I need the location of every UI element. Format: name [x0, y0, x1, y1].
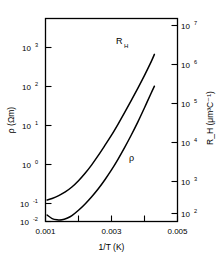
- annotation-rho: ρ: [129, 153, 134, 163]
- left-tick-label-1e2-mantissa: 10: [22, 83, 31, 92]
- left-tick-label-1em1-exponent: -1: [33, 198, 38, 204]
- left-tick-label-1e0-mantissa: 10: [22, 161, 31, 170]
- left-tick-label-1e1-exponent: 1: [35, 120, 38, 126]
- left-tick-label-1em2-exponent: -2: [33, 216, 38, 222]
- right-tick-label-1e2-mantissa: 10: [181, 210, 190, 219]
- series-curve-rho: [47, 86, 154, 220]
- left-tick-label-1e3-exponent: 3: [35, 42, 38, 48]
- annotation-rh-subscript: H: [124, 43, 128, 49]
- x-tick-label-0.005: 0.005: [167, 227, 188, 236]
- left-axis-tick-labels: 10 3 10 2 10 1 10 0 10 -1 10 -2: [20, 42, 38, 228]
- right-tick-label-1e5-mantissa: 10: [181, 100, 190, 109]
- right-tick-label-1e5-exponent: 5: [194, 98, 197, 104]
- right-tick-label-1e3-mantissa: 10: [181, 178, 190, 187]
- series-curve-rh: [47, 54, 154, 200]
- chart-plot: 10 3 10 2 10 1 10 0 10 -1 10 -2 10 7: [0, 0, 223, 269]
- left-axis-ticks: [46, 48, 52, 222]
- annotation-rh: R H: [116, 36, 128, 49]
- x-tick-label-0.003: 0.003: [101, 227, 122, 236]
- left-tick-label-1em2-mantissa: 10: [20, 218, 29, 227]
- left-axis-title: ρ (Ωm): [6, 107, 16, 133]
- left-tick-label-1e2-exponent: 2: [35, 81, 38, 87]
- left-tick-label-1e1-mantissa: 10: [22, 122, 31, 131]
- right-tick-label-1e4-mantissa: 10: [181, 139, 190, 148]
- right-axis-ticks: [172, 26, 178, 214]
- right-tick-label-1e3-exponent: 3: [194, 176, 197, 182]
- x-tick-label-0.001: 0.001: [35, 227, 56, 236]
- right-axis-title: R_H (μm³C⁻¹): [205, 91, 215, 145]
- left-tick-label-1e0-exponent: 0: [35, 159, 38, 165]
- right-tick-label-1e6-exponent: 6: [194, 59, 197, 65]
- right-tick-label-1e2-exponent: 2: [194, 208, 197, 214]
- right-tick-label-1e6-mantissa: 10: [181, 61, 190, 70]
- figure-container: 10 3 10 2 10 1 10 0 10 -1 10 -2 10 7: [0, 0, 223, 269]
- left-tick-label-1e3-mantissa: 10: [22, 44, 31, 53]
- left-axis-title-text: ρ (Ωm): [6, 107, 16, 133]
- annotation-rh-base: R: [116, 36, 123, 46]
- left-tick-label-1em1-mantissa: 10: [20, 200, 29, 209]
- right-tick-label-1e7-mantissa: 10: [181, 22, 190, 31]
- right-axis-title-text: R_H (μm³C⁻¹): [205, 91, 215, 145]
- right-tick-label-1e4-exponent: 4: [194, 137, 197, 143]
- x-axis-title: 1/T (K): [99, 242, 125, 252]
- right-tick-label-1e7-exponent: 7: [194, 20, 197, 26]
- x-axis-tick-labels: 0.001 0.003 0.005: [35, 227, 188, 236]
- right-axis-tick-labels: 10 7 10 6 10 5 10 4 10 3 10 2: [181, 20, 197, 220]
